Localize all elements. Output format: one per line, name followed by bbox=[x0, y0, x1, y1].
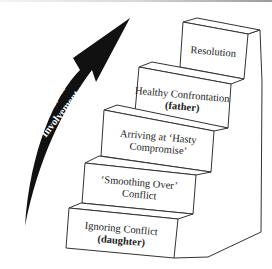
base-edge bbox=[174, 257, 208, 258]
staircase-diagram: Energy & Involvement Resolution Healthy … bbox=[0, 0, 272, 269]
